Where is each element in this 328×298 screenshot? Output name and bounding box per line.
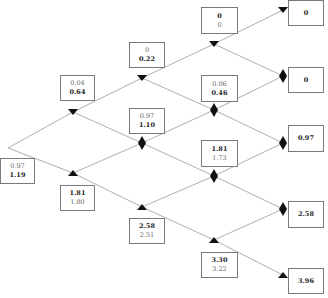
node-value: 0 xyxy=(304,9,309,18)
node-l3-a: 0 0 xyxy=(201,7,238,34)
node-l1-up: 0.04 0.64 xyxy=(60,75,95,101)
diamond-icon xyxy=(138,136,146,150)
node-value-1: 2.58 xyxy=(139,222,155,231)
node-value-1: 0.97 xyxy=(140,112,154,121)
node-value-2: 0.46 xyxy=(212,89,228,98)
diamond-icon xyxy=(210,169,218,183)
diamond-icon xyxy=(279,136,287,150)
node-l1-down: 1.81 1.80 xyxy=(60,185,95,211)
node-value: 0.97 xyxy=(298,134,314,143)
node-value-2: 2.51 xyxy=(140,231,154,240)
node-l2-bottom: 2.58 2.51 xyxy=(129,218,165,244)
node-l4-b: 0 xyxy=(288,67,324,93)
node-value-2: 0 xyxy=(217,21,221,30)
node-value-2: 1.73 xyxy=(212,154,226,163)
node-value-2: 0.64 xyxy=(70,88,86,97)
node-value: 2.58 xyxy=(298,210,314,219)
node-value-2: 3.22 xyxy=(212,265,226,274)
node-value: 0 xyxy=(304,76,309,85)
node-l3-c: 1.81 1.73 xyxy=(201,140,238,167)
diamond-icon xyxy=(279,69,287,83)
node-l4-a: 0 xyxy=(288,0,324,26)
node-l4-d: 2.58 xyxy=(288,201,324,228)
node-value-1: 1.81 xyxy=(212,145,228,154)
node-value-1: 3.30 xyxy=(212,256,228,265)
node-value-2: 0.22 xyxy=(139,55,155,64)
node-value-1: 0.04 xyxy=(70,79,84,88)
node-l3-b: 0.06 0.46 xyxy=(201,75,238,102)
node-value-1: 0.06 xyxy=(212,80,226,89)
node-value-1: 0.97 xyxy=(10,162,24,171)
node-root: 0.97 1.19 xyxy=(0,158,35,184)
node-l3-d: 3.30 3.22 xyxy=(201,252,238,278)
triangle-up-icon xyxy=(68,170,78,176)
node-l2-mid: 0.97 1.10 xyxy=(129,108,165,134)
node-value-1: 0 xyxy=(145,46,149,55)
node-value-2: 1.10 xyxy=(139,121,155,130)
node-value-2: 1.80 xyxy=(70,198,84,207)
node-value-1: 1.81 xyxy=(70,189,86,198)
diamond-icon xyxy=(279,202,287,216)
triangle-up-icon xyxy=(209,237,219,243)
node-l2-top: 0 0.22 xyxy=(129,42,165,68)
node-value-1: 0 xyxy=(217,12,222,21)
node-value-2: 1.19 xyxy=(10,171,26,180)
diamond-icon xyxy=(210,103,218,117)
node-value: 3.96 xyxy=(298,277,314,286)
triangle-down-icon xyxy=(209,41,219,47)
node-l4-c: 0.97 xyxy=(288,125,324,152)
node-l4-e: 3.96 xyxy=(288,268,324,294)
